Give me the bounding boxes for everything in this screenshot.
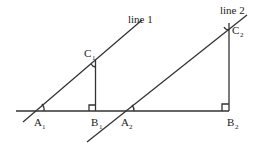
label-b1-sub: 1 bbox=[99, 123, 103, 131]
angle-arc-c1 bbox=[91, 64, 96, 67]
label-b2: B bbox=[227, 116, 234, 128]
similar-triangles-diagram: line 1 line 2 A 1 B 1 C 1 A 2 B 2 C 2 bbox=[0, 0, 253, 150]
label-a1-sub: 1 bbox=[42, 123, 46, 131]
label-c1-sub: 1 bbox=[92, 54, 96, 62]
label-line-1: line 1 bbox=[128, 13, 153, 25]
label-a2: A bbox=[121, 116, 129, 128]
angle-arc-a2 bbox=[132, 105, 134, 111]
label-b2-sub: 2 bbox=[235, 123, 239, 131]
right-angle-b1 bbox=[89, 105, 96, 111]
right-angle-b2 bbox=[222, 104, 229, 111]
line-1 bbox=[23, 20, 142, 122]
label-c2: C bbox=[232, 24, 239, 36]
label-c2-sub: 2 bbox=[240, 31, 244, 39]
label-a1: A bbox=[34, 116, 42, 128]
label-a2-sub: 2 bbox=[129, 123, 133, 131]
label-line-2: line 2 bbox=[220, 4, 245, 16]
angle-arc-c2 bbox=[224, 27, 229, 30]
label-b1: B bbox=[91, 116, 98, 128]
line-2 bbox=[87, 15, 247, 142]
label-c1: C bbox=[84, 47, 91, 59]
